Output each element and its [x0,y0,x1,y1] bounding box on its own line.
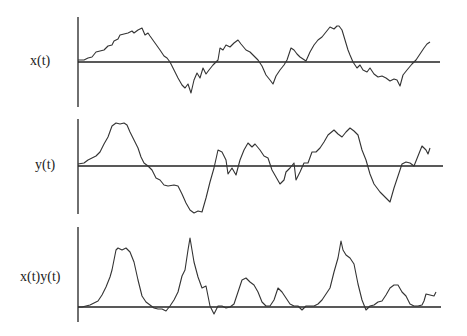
xy-trace [78,238,436,314]
y-trace [78,123,430,213]
chart-canvas [0,0,467,336]
x-trace [78,26,430,93]
